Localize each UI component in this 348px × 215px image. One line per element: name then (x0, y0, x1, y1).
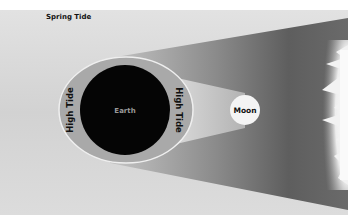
sun-core (340, 50, 348, 180)
spring-tide-diagram: Earth High Tide High Tide Moon Spring Ti… (0, 0, 348, 215)
high-tide-label-left: High Tide (65, 87, 75, 133)
sun (320, 40, 348, 190)
high-tide-label-right: High Tide (174, 87, 184, 133)
diagram-canvas: Earth High Tide High Tide Moon Spring Ti… (0, 0, 348, 215)
moon-label: Moon (233, 106, 256, 115)
earth-label: Earth (114, 107, 135, 115)
diagram-title: Spring Tide (46, 13, 92, 21)
